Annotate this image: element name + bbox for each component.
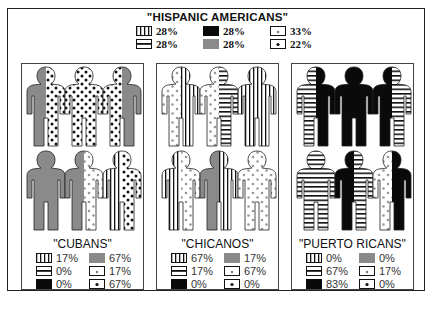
gray-swatch-icon — [359, 253, 375, 263]
legend-value: 17% — [244, 252, 266, 264]
legend-item-gray: 0% — [359, 252, 395, 263]
person-figure-icon — [237, 150, 277, 232]
legend-value: 0% — [56, 278, 72, 290]
black-swatch-icon — [36, 279, 52, 289]
legend-item-lightdots: 17% — [359, 265, 401, 276]
legend-value: 28% — [156, 25, 178, 37]
legend-item-hstripes: 28% — [136, 38, 178, 50]
black-swatch-icon — [171, 279, 187, 289]
legend-item-dots: 67% — [89, 278, 131, 289]
legend-value: 0% — [191, 278, 207, 290]
legend-value: 0% — [56, 265, 72, 277]
legend-item-gray: 67% — [89, 252, 131, 263]
person-figure-icon — [26, 66, 66, 148]
person-figure-icon — [199, 150, 239, 232]
person-figure-icon — [199, 66, 239, 148]
gray-swatch-icon — [89, 253, 105, 263]
legend-item-black: 28% — [203, 25, 245, 37]
legend-value: 17% — [379, 265, 401, 277]
legend-item-gray: 17% — [224, 252, 266, 263]
legend-item-hstripes: 17% — [171, 265, 213, 276]
person-figure-icon — [161, 150, 201, 232]
legend-item-black: 0% — [36, 278, 72, 289]
legend-value: 67% — [326, 265, 348, 277]
legend-item-hstripes: 0% — [36, 265, 72, 276]
legend-value: 0% — [244, 278, 260, 290]
light-dots-swatch-icon — [359, 266, 375, 276]
person-figure-icon — [296, 150, 336, 232]
person-figure-icon — [372, 66, 412, 148]
light-dots-swatch-icon — [270, 26, 286, 36]
horizontal-stripes-swatch-icon — [36, 266, 52, 276]
panel-title: "PUERTO RICANS" — [292, 237, 413, 251]
legend-item-dots: 22% — [270, 38, 312, 50]
panel-title: "CUBANS" — [22, 237, 143, 251]
legend-value: 67% — [191, 252, 213, 264]
legend-item-vstripes: 0% — [306, 252, 342, 263]
person-figure-icon — [372, 150, 412, 232]
legend-value: 28% — [223, 25, 245, 37]
dark-dots-swatch-icon — [270, 39, 286, 49]
legend-value: 67% — [109, 278, 131, 290]
legend-item-black: 83% — [306, 278, 348, 289]
person-figure-icon — [102, 150, 142, 232]
black-swatch-icon — [203, 26, 219, 36]
person-figure-icon — [64, 66, 104, 148]
legend-value: 0% — [379, 252, 395, 264]
person-figure-icon — [237, 66, 277, 148]
legend-value: 17% — [56, 252, 78, 264]
gray-swatch-icon — [203, 39, 219, 49]
panel-title: "CHICANOS" — [157, 237, 278, 251]
dark-dots-swatch-icon — [359, 279, 375, 289]
gray-swatch-icon — [224, 253, 240, 263]
legend-item-hstripes: 67% — [306, 265, 348, 276]
legend-item-lightdots: 67% — [224, 265, 266, 276]
person-figure-icon — [102, 66, 142, 148]
person-figure-icon — [64, 150, 104, 232]
legend-value: 0% — [326, 252, 342, 264]
vertical-stripes-swatch-icon — [136, 26, 152, 36]
legend-item-black: 0% — [171, 278, 207, 289]
page-title: "HISPANIC AMERICANS" — [0, 11, 435, 23]
legend-item-vstripes: 67% — [171, 252, 213, 263]
legend-value: 28% — [156, 38, 178, 50]
vertical-stripes-swatch-icon — [171, 253, 187, 263]
vertical-stripes-swatch-icon — [306, 253, 322, 263]
legend-item-vstripes: 28% — [136, 25, 178, 37]
legend-item-dots: 0% — [359, 278, 395, 289]
light-dots-swatch-icon — [89, 266, 105, 276]
panel-chicanos: "CHICANOS" 67% 17% 0% 17% 67% 0% — [156, 63, 279, 290]
legend-value: 0% — [379, 278, 395, 290]
horizontal-stripes-swatch-icon — [136, 39, 152, 49]
person-figure-icon — [334, 150, 374, 232]
legend-value: 17% — [191, 265, 213, 277]
panel-puerto-ricans: "PUERTO RICANS" 0% 67% 83% 0% 17% 0% — [291, 63, 414, 290]
person-figure-icon — [26, 150, 66, 232]
legend-item-gray: 28% — [203, 38, 245, 50]
vertical-stripes-swatch-icon — [36, 253, 52, 263]
horizontal-stripes-swatch-icon — [306, 266, 322, 276]
legend-item-lightdots: 33% — [270, 25, 312, 37]
legend-item-dots: 0% — [224, 278, 260, 289]
legend-value: 22% — [290, 38, 312, 50]
panel-cubans: "CUBANS" 17% 0% 0% 67% 17% 67% — [21, 63, 144, 290]
person-figure-icon — [334, 66, 374, 148]
person-figure-icon — [296, 66, 336, 148]
legend-value: 17% — [109, 265, 131, 277]
legend-value: 33% — [290, 25, 312, 37]
legend-item-vstripes: 17% — [36, 252, 78, 263]
legend-value: 28% — [223, 38, 245, 50]
dark-dots-swatch-icon — [224, 279, 240, 289]
person-figure-icon — [161, 66, 201, 148]
overall-legend: 28% 28% 28% 28% 33% 22% — [136, 25, 326, 51]
legend-item-lightdots: 17% — [89, 265, 131, 276]
light-dots-swatch-icon — [224, 266, 240, 276]
legend-value: 67% — [244, 265, 266, 277]
legend-value: 83% — [326, 278, 348, 290]
horizontal-stripes-swatch-icon — [171, 266, 187, 276]
legend-value: 67% — [109, 252, 131, 264]
dark-dots-swatch-icon — [89, 279, 105, 289]
black-swatch-icon — [306, 279, 322, 289]
